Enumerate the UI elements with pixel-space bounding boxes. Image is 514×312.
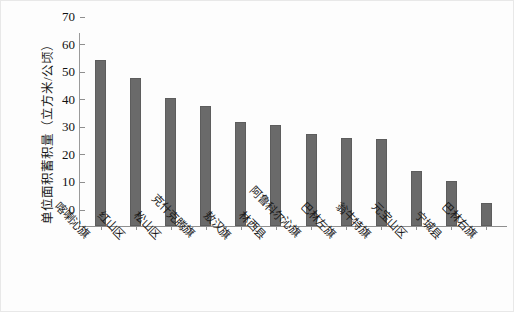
x-label-slot: 阿鲁科尔沁旗 bbox=[293, 228, 328, 312]
x-label-slot: 红山区 bbox=[117, 228, 152, 312]
y-axis-tick-label: 60 bbox=[53, 37, 80, 53]
x-label-slot: 敖汉旗 bbox=[223, 228, 258, 312]
y-axis-tick-label: 40 bbox=[53, 92, 80, 108]
bar-slot bbox=[293, 33, 328, 226]
x-axis-labels: 喀喇沁旗红山区松山区克什克腾旗敖汉旗林西县阿鲁科尔沁旗巴林左旗翁牛特旗元宝山区宁… bbox=[79, 228, 507, 312]
bar bbox=[95, 60, 106, 226]
x-label-slot: 巴林左旗 bbox=[328, 228, 363, 312]
y-axis-tick-label: 10 bbox=[53, 174, 80, 190]
y-axis-tick-label: 70 bbox=[53, 9, 80, 25]
x-label-slot: 元宝山区 bbox=[399, 228, 434, 312]
bar-slot bbox=[434, 33, 469, 226]
x-label-slot: 翁牛特旗 bbox=[363, 228, 398, 312]
x-label-slot: 松山区 bbox=[152, 228, 187, 312]
x-label-slot: 林西县 bbox=[258, 228, 293, 312]
y-axis-tick-label: 50 bbox=[53, 64, 80, 80]
bar-slot bbox=[118, 33, 153, 226]
y-axis-tick: 30 bbox=[53, 119, 80, 135]
x-label-slot: 喀喇沁旗 bbox=[82, 228, 117, 312]
bars-container bbox=[80, 33, 507, 226]
x-label-slot: 克什克腾旗 bbox=[188, 228, 223, 312]
bar-slot bbox=[329, 33, 364, 226]
y-axis-tick: 50 bbox=[53, 64, 80, 80]
bar-chart: 单位面积蓄积量（立方米/公顷） 010203040506070 喀喇沁旗红山区松… bbox=[0, 0, 514, 312]
bar bbox=[481, 203, 492, 226]
bar-slot bbox=[364, 33, 399, 226]
y-axis-tick-label: 20 bbox=[53, 147, 80, 163]
y-axis-tick: 20 bbox=[53, 147, 80, 163]
plot-area: 010203040506070 bbox=[79, 33, 507, 227]
y-axis-tick: 70 bbox=[53, 9, 80, 25]
bar-slot bbox=[83, 33, 118, 226]
bar-slot bbox=[188, 33, 223, 226]
bar-slot bbox=[399, 33, 434, 226]
x-label-slot: 巴林右旗 bbox=[469, 228, 504, 312]
x-label-slot: 宁城县 bbox=[434, 228, 469, 312]
y-axis-tick: 40 bbox=[53, 92, 80, 108]
bar bbox=[130, 78, 141, 226]
y-axis-tick: 60 bbox=[53, 37, 80, 53]
y-axis-tick-label: 30 bbox=[53, 119, 80, 135]
y-axis-tick: 10 bbox=[53, 174, 80, 190]
y-axis-tick-mark bbox=[80, 17, 85, 18]
bar-slot bbox=[469, 33, 504, 226]
